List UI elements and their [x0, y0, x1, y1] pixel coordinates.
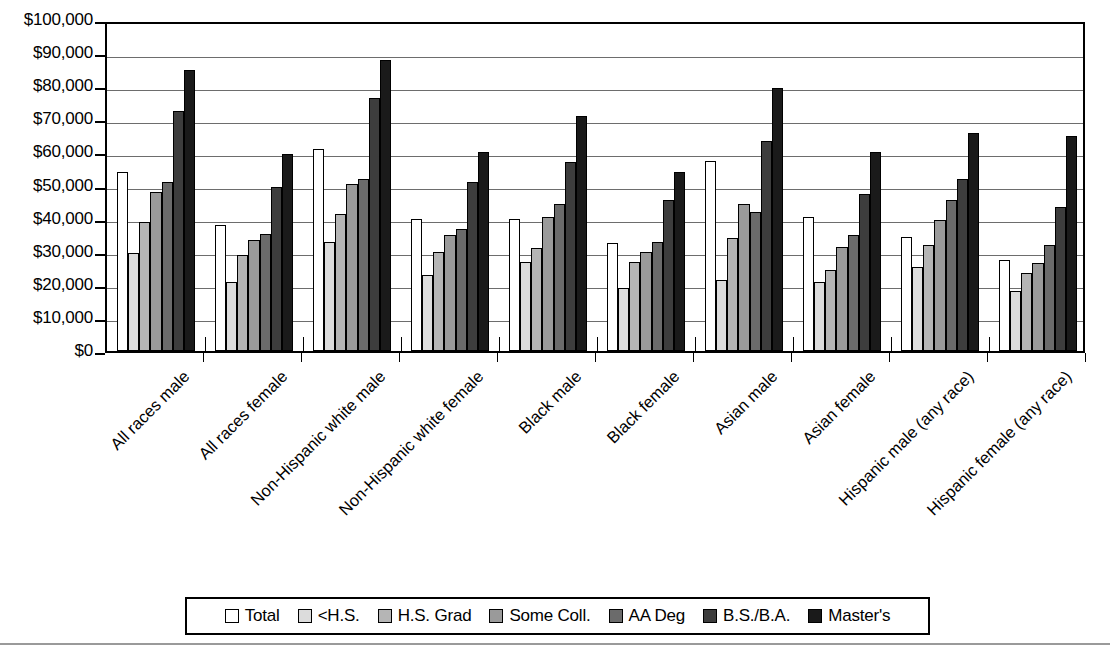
x-axis-tick [987, 353, 988, 362]
bar [358, 179, 369, 351]
bar [478, 152, 489, 351]
bar [565, 162, 576, 351]
x-axis-tick [791, 353, 792, 362]
bar [1044, 245, 1055, 351]
group-separator [891, 337, 892, 351]
group-separator [695, 337, 696, 351]
legend-swatch-icon [609, 609, 623, 623]
bar [629, 262, 640, 351]
legend-item[interactable]: Master's [808, 606, 890, 626]
legend-swatch-icon [298, 609, 312, 623]
legend-swatch-icon [225, 609, 239, 623]
bar-group [499, 24, 597, 351]
legend-item[interactable]: Total [225, 606, 280, 626]
bar [738, 204, 749, 351]
bar [444, 235, 455, 351]
bar [652, 242, 663, 351]
bar [618, 288, 629, 351]
y-axis-tick-label: $20,000 [33, 275, 93, 295]
legend-item[interactable]: <H.S. [298, 606, 360, 626]
x-axis-tick [301, 353, 302, 362]
y-axis-tick-label: $80,000 [33, 76, 93, 96]
chart-page: $100,000$90,000$80,000$70,000$60,000$50,… [0, 0, 1110, 647]
bar [1066, 136, 1077, 351]
bar [901, 237, 912, 351]
x-axis-tick [1085, 353, 1086, 362]
x-axis-tick [595, 353, 596, 362]
y-axis: $100,000$90,000$80,000$70,000$60,000$50,… [0, 0, 105, 375]
bar [761, 141, 772, 351]
bar [128, 253, 139, 351]
y-axis-tick-mark [95, 88, 105, 90]
bar [313, 149, 324, 351]
bar [705, 161, 716, 351]
plot-area [105, 22, 1085, 353]
bar [117, 172, 128, 351]
legend-label: Master's [828, 606, 890, 626]
y-axis-tick-mark [95, 254, 105, 256]
x-axis-tick [399, 353, 400, 362]
bar [271, 187, 282, 351]
x-axis-tick [497, 353, 498, 362]
bar [139, 222, 150, 351]
bar [215, 225, 226, 351]
bar [456, 229, 467, 351]
bar [836, 247, 847, 351]
x-axis-label: Black female [603, 367, 683, 447]
bar [1032, 263, 1043, 351]
x-axis-labels: All races maleAll races femaleNon-Hispan… [0, 353, 1110, 583]
legend-swatch-icon [378, 609, 392, 623]
bar [607, 243, 618, 351]
bar [999, 260, 1010, 351]
bar [640, 252, 651, 351]
y-axis-tick-mark [95, 55, 105, 57]
y-axis-tick-label: $40,000 [33, 209, 93, 229]
bar [870, 152, 881, 351]
legend-label: H.S. Grad [398, 606, 472, 626]
bar [825, 270, 836, 351]
y-axis-tick-label: $50,000 [33, 176, 93, 196]
group-separator [989, 337, 990, 351]
bar [467, 182, 478, 351]
y-axis-tick-mark [95, 121, 105, 123]
bar [814, 282, 825, 352]
legend-item[interactable]: H.S. Grad [378, 606, 472, 626]
legend-item[interactable]: AA Deg [609, 606, 685, 626]
bar-group [989, 24, 1087, 351]
bar-group [891, 24, 989, 351]
legend-swatch-icon [489, 609, 503, 623]
x-axis-tick [693, 353, 694, 362]
bar [173, 111, 184, 351]
x-axis-label: All races male [107, 367, 194, 454]
x-axis-tick [889, 353, 890, 362]
bar [520, 262, 531, 351]
bar [422, 275, 433, 351]
y-axis-tick-mark [95, 320, 105, 322]
bar [369, 98, 380, 351]
bar [433, 252, 444, 351]
bar [716, 280, 727, 351]
group-separator [401, 337, 402, 351]
bar [411, 219, 422, 351]
bottom-rule [0, 643, 1110, 645]
group-separator [205, 337, 206, 351]
bar [923, 245, 934, 351]
bar-group [107, 24, 205, 351]
legend-label: B.S./B.A. [723, 606, 790, 626]
bar [282, 154, 293, 351]
bar [248, 240, 259, 351]
bar-group [597, 24, 695, 351]
legend-label: Total [245, 606, 280, 626]
legend-item[interactable]: Some Coll. [489, 606, 590, 626]
bar [674, 172, 685, 351]
bar [542, 217, 553, 351]
bar [554, 204, 565, 351]
bar [324, 242, 335, 351]
bar [380, 60, 391, 351]
x-axis-label: All races female [195, 367, 291, 463]
legend-swatch-icon [703, 609, 717, 623]
legend-label: AA Deg [629, 606, 685, 626]
group-separator [793, 337, 794, 351]
legend-item[interactable]: B.S./B.A. [703, 606, 790, 626]
bar-group [205, 24, 303, 351]
